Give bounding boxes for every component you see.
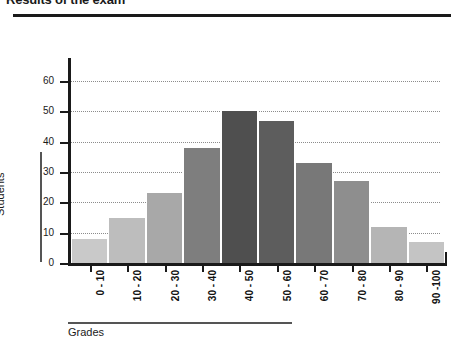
y-tick-20 [60,202,68,204]
bar-50-60[interactable] [258,121,295,263]
y-tick-label-60: 60 [30,75,54,86]
y-tick-60 [60,81,68,83]
bar-series [71,66,445,263]
x-tick-label-2: 20 - 30 [170,270,181,330]
y-tick-label-10: 10 [30,227,54,238]
title-divider [13,14,451,17]
bar-0-10[interactable] [71,239,108,263]
bar-20-30[interactable] [146,193,183,263]
x-tick-label-3: 30 - 40 [207,270,218,330]
x-tick-label-6: 60 - 70 [319,270,330,330]
y-tick-label-0: 0 [30,257,54,268]
bar-80-90[interactable] [370,227,407,263]
x-tick-0 [90,266,92,272]
x-tick-label-7: 70 - 80 [357,270,368,330]
chart-page: Results of the exam 0102030405060 0 - 10… [0,0,467,352]
bar-cell [370,66,407,263]
x-tick-5 [277,266,279,272]
y-tick-label-20: 20 [30,196,54,207]
x-tick-3 [202,266,204,272]
x-tick-1 [127,266,129,272]
x-tick-label-4: 40 - 50 [244,270,255,330]
bar-30-40[interactable] [183,148,220,263]
x-axis-title-rule [68,322,292,324]
x-tick-9 [426,266,428,272]
bar-40-50[interactable] [221,111,258,263]
plot-area [71,66,445,263]
y-tick-label-30: 30 [30,166,54,177]
y-axis-title-rule [40,152,42,262]
bar-cell [295,66,332,263]
x-tick-6 [314,266,316,272]
x-tick-2 [165,266,167,272]
bar-cell [221,66,258,263]
y-tick-40 [60,142,68,144]
bar-90-100[interactable] [408,242,445,263]
x-tick-label-1: 10 - 20 [132,270,143,330]
page-title: Results of the exam [6,0,125,7]
y-tick-label-50: 50 [30,105,54,116]
y-axis-title: Students [0,173,6,216]
x-axis-title: Grades [68,326,104,338]
x-tick-8 [389,266,391,272]
y-tick-30 [60,172,68,174]
y-tick-10 [60,233,68,235]
bar-cell [333,66,370,263]
bar-cell [408,66,445,263]
y-tick-50 [60,111,68,113]
bar-cell [146,66,183,263]
bar-cell [108,66,145,263]
x-tick-4 [239,266,241,272]
bar-70-80[interactable] [333,181,370,263]
bar-10-20[interactable] [108,218,145,263]
y-tick-label-40: 40 [30,136,54,147]
y-tick-0 [60,263,68,265]
bar-60-70[interactable] [295,163,332,263]
x-tick-7 [352,266,354,272]
x-tick-label-5: 50 - 60 [282,270,293,330]
x-tick-label-0: 0 - 10 [95,270,106,330]
bar-cell [71,66,108,263]
bar-cell [183,66,220,263]
x-tick-label-9: 90 -100 [431,270,442,330]
x-tick-label-8: 80 - 90 [394,270,405,330]
bar-cell [258,66,295,263]
